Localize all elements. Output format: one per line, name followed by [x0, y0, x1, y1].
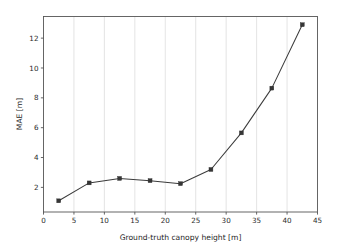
y-tick-label-6: 6 [34, 123, 39, 132]
data-point-marker [179, 182, 183, 186]
x-axis-title: Ground-truth canopy height [m] [120, 233, 242, 242]
x-tick-label-20: 20 [161, 216, 171, 225]
x-tick-label-25: 25 [191, 216, 200, 225]
y-tick-label-2: 2 [34, 183, 39, 192]
data-point-marker [87, 181, 91, 185]
data-point-marker [148, 179, 152, 183]
data-point-marker [57, 199, 61, 203]
data-point-marker [209, 168, 213, 172]
x-tick-label-45: 45 [313, 216, 322, 225]
x-tick-label-30: 30 [222, 216, 232, 225]
data-point-marker [270, 86, 274, 90]
x-tick-label-40: 40 [282, 216, 292, 225]
y-tick-label-12: 12 [29, 34, 38, 43]
chart-figure: 051015202530354045 24681012 Ground-truth… [0, 0, 337, 249]
y-tick-label-4: 4 [34, 153, 39, 162]
mae-vs-canopy-height-line-chart: 051015202530354045 24681012 Ground-truth… [0, 0, 337, 249]
y-tick-label-8: 8 [34, 93, 39, 102]
data-point-marker [118, 176, 122, 180]
data-point-marker [239, 131, 243, 135]
x-tick-label-15: 15 [130, 216, 139, 225]
x-tick-label-35: 35 [252, 216, 261, 225]
x-tick-label-5: 5 [72, 216, 77, 225]
y-tick-label-10: 10 [29, 64, 39, 73]
x-tick-label-0: 0 [41, 216, 46, 225]
y-axis-title: MAE [m] [15, 98, 24, 130]
data-point-marker [300, 23, 304, 27]
x-tick-label-10: 10 [100, 216, 110, 225]
